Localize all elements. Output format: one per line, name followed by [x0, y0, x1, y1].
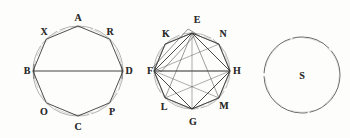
figure-2-vertex-label-N: N [219, 29, 226, 39]
figure-1-vertex-label-D: D [125, 66, 132, 76]
figure-1-vertex-label-R: R [106, 27, 113, 37]
figure-1-vertex-label-B: B [24, 66, 31, 76]
figure-2-chord-E-F [154, 33, 192, 71]
figure-1-vertex-label-C: C [74, 122, 81, 132]
figure-1-vertex-label-X: X [40, 27, 47, 37]
figure-1-vertex-label-P: P [109, 107, 115, 117]
figure-2-vertex-label-H: H [233, 66, 241, 76]
figure-2-chord-H-N [219, 44, 230, 71]
figure-1-vertex-label-O: O [40, 107, 48, 117]
figure-2-chord-G-M [192, 98, 219, 109]
figure-2-vertex-label-K: K [162, 29, 170, 39]
figure-2-vertex-label-F: F [147, 66, 153, 76]
figure-2-vertex-label-G: G [189, 117, 197, 127]
figure-3-inner-label-S: S [299, 71, 305, 81]
figure-1-vertex-label-A: A [74, 13, 81, 23]
plate-drawing [0, 0, 350, 138]
figure-2-vertex-label-M: M [219, 101, 228, 111]
figure-1-group [33, 26, 123, 116]
figure-2-vertex-label-E: E [194, 15, 201, 25]
figure-2-group [153, 29, 230, 109]
figure-2-chord-G-L [165, 98, 192, 109]
figure-2-vertex-label-L: L [161, 102, 168, 112]
figure-plate: A R D P C O B X E N H M G L F K S [0, 0, 350, 138]
